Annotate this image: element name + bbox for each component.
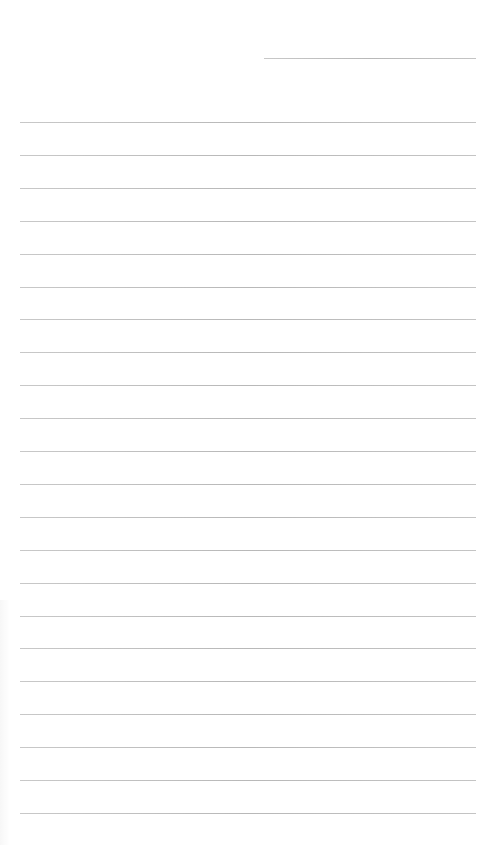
ruled-line — [20, 254, 476, 255]
lined-paper-page — [0, 0, 502, 845]
ruled-line — [20, 550, 476, 551]
ruled-line — [20, 583, 476, 584]
ruled-line — [20, 352, 476, 353]
ruled-line — [20, 813, 476, 814]
ruled-line — [20, 616, 476, 617]
ruled-line — [20, 714, 476, 715]
ruled-line — [20, 418, 476, 419]
ruled-line — [20, 221, 476, 222]
ruled-line — [20, 517, 476, 518]
ruled-line — [20, 122, 476, 123]
ruled-line — [20, 385, 476, 386]
ruled-line — [20, 648, 476, 649]
header-name-line — [264, 58, 476, 59]
page-edge-shadow — [0, 600, 10, 845]
ruled-line — [20, 188, 476, 189]
ruled-line — [20, 287, 476, 288]
ruled-line — [20, 451, 476, 452]
ruled-line — [20, 319, 476, 320]
ruled-line — [20, 780, 476, 781]
ruled-line — [20, 155, 476, 156]
ruled-line — [20, 681, 476, 682]
ruled-line — [20, 747, 476, 748]
ruled-line — [20, 484, 476, 485]
